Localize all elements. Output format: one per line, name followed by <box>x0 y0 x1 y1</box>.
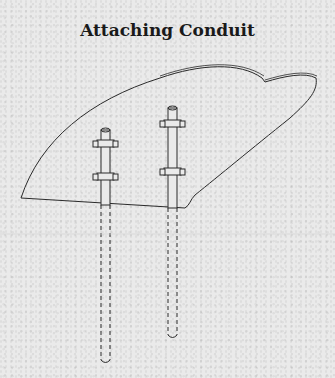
conduit-illustration <box>0 0 335 378</box>
diagram-canvas: Attaching Conduit <box>0 0 335 378</box>
conduit-left <box>93 128 118 363</box>
conduit-right <box>160 106 185 338</box>
